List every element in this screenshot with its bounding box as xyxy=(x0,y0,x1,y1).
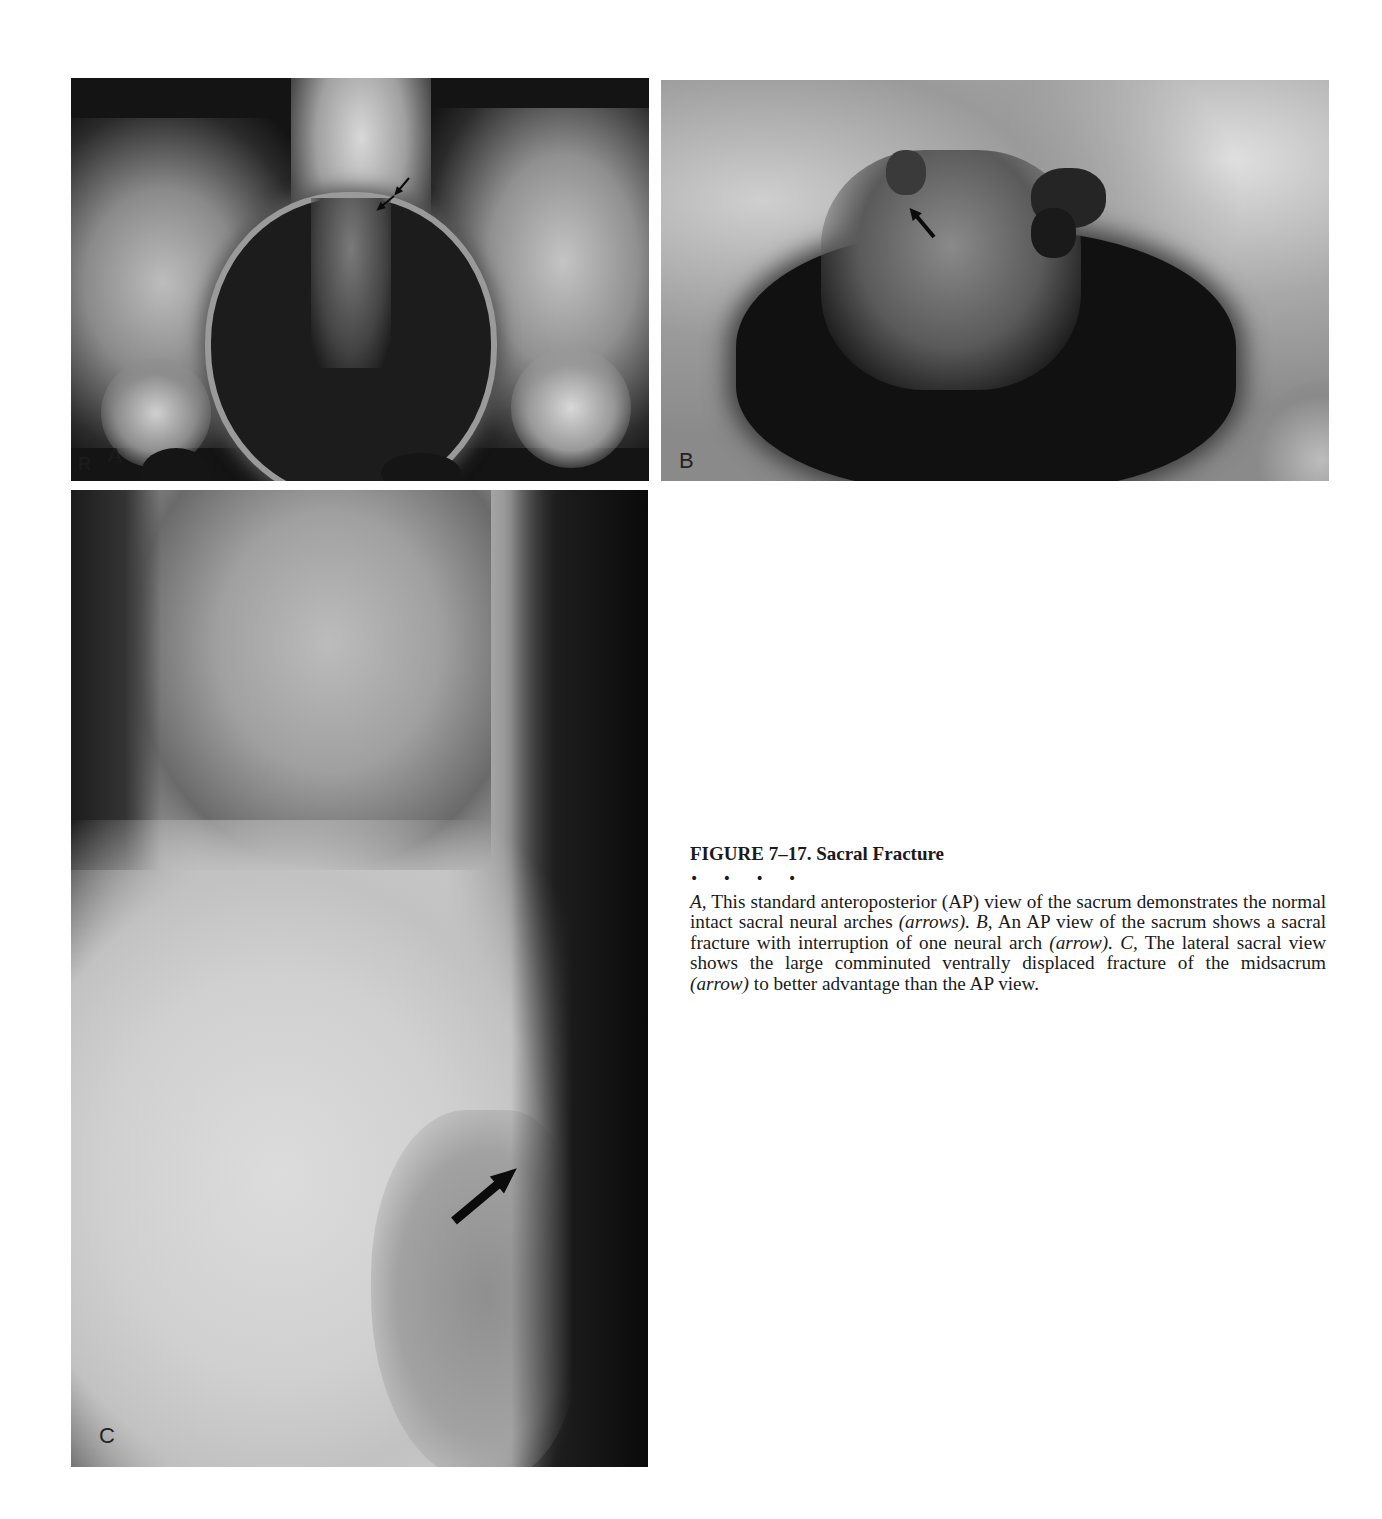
sacral-foramen xyxy=(886,150,926,195)
caption-a-label: A, xyxy=(690,891,707,912)
sacrum xyxy=(311,198,391,368)
panel-label-c: C xyxy=(99,1425,115,1447)
upper-vertebrae xyxy=(131,490,491,870)
xray-panel-c: C xyxy=(71,490,648,1467)
panel-label-a: A xyxy=(108,444,122,465)
sacral-foramen xyxy=(1031,208,1076,258)
caption-c-label: C, xyxy=(1120,932,1138,953)
side-marker-r: R xyxy=(78,455,91,473)
caption-body: A, This standard anteroposterior (AP) vi… xyxy=(690,892,1326,994)
figure-title: FIGURE 7–17. Sacral Fracture xyxy=(690,842,1326,866)
xray-panel-a: R A xyxy=(71,78,649,481)
separator-dots: • • • • xyxy=(690,870,1326,886)
dark-right-edge xyxy=(511,490,648,1467)
caption-b-label: B, xyxy=(976,911,993,932)
caption-c-paren: (arrow) xyxy=(690,973,749,994)
xray-panel-b: B xyxy=(661,80,1329,481)
caption-b-paren: (arrow). xyxy=(1049,932,1113,953)
figure-caption: FIGURE 7–17. Sacral Fracture • • • • A, … xyxy=(690,842,1326,994)
dark-upper-left xyxy=(71,490,161,870)
caption-a-paren: (arrows). xyxy=(899,911,970,932)
panel-label-b: B xyxy=(679,450,694,472)
right-hip-joint xyxy=(511,348,631,468)
caption-c-tail: to better advantage than the AP view. xyxy=(749,973,1039,994)
